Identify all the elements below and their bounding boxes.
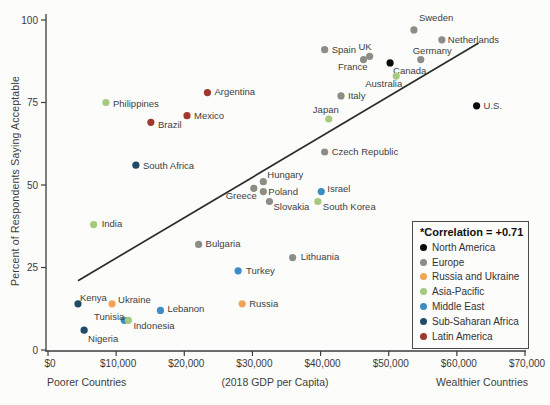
x-tick-label: $20,000 (168, 358, 205, 369)
country-label-russia: Russia (249, 298, 279, 309)
country-label-italy: Italy (348, 90, 366, 101)
legend-item-latin-america: Latin America (420, 329, 523, 344)
x-tick-label: $30,000 (236, 358, 273, 369)
legend-color-dot (420, 244, 427, 251)
country-label-brazil: Brazil (158, 119, 182, 130)
data-point-italy (337, 92, 344, 99)
data-point-u-s- (473, 102, 480, 109)
data-point-sweden (410, 26, 417, 33)
legend-item-middle-east: Middle East (420, 299, 523, 314)
legend-item-label: Europe (432, 257, 464, 268)
country-label-uk: UK (358, 41, 372, 52)
x-axis-caption-wealthier: Wealthier Countries (436, 376, 528, 388)
country-label-france: France (338, 61, 368, 72)
country-label-lithuania: Lithuania (301, 251, 340, 262)
country-label-germany: Germany (413, 45, 452, 56)
country-label-poland: Poland (268, 186, 298, 197)
country-label-sweden: Sweden (419, 12, 453, 23)
data-point-indonesia (125, 317, 132, 324)
legend-item-sub-saharan-africa: Sub-Saharan Africa (420, 314, 523, 329)
legend-color-dot (420, 273, 427, 280)
legend-item-asia-pacific: Asia-Pacific (420, 284, 523, 299)
legend-color-dot (420, 259, 427, 266)
legend-color-dot (420, 288, 427, 295)
data-point-mexico (183, 112, 190, 119)
country-label-israel: Israel (327, 183, 350, 194)
data-point-poland (260, 188, 267, 195)
country-label-south-africa: South Africa (143, 160, 195, 171)
data-point-turkey (235, 267, 242, 274)
data-point-slovakia (266, 198, 273, 205)
country-label-spain: Spain (332, 44, 356, 55)
data-point-bulgaria (195, 241, 202, 248)
x-tick-label: $50,000 (373, 358, 410, 369)
data-point-germany (417, 56, 424, 63)
country-label-slovakia: Slovakia (273, 201, 310, 212)
legend-item-label: Sub-Saharan Africa (432, 316, 519, 327)
country-label-ukraine: Ukraine (118, 294, 151, 305)
country-label-australia: Australia (365, 78, 403, 89)
y-tick-label: 100 (21, 15, 38, 26)
data-point-israel (318, 188, 325, 195)
country-label-greece: Greece (226, 190, 257, 201)
legend-color-dot (420, 318, 427, 325)
data-point-india (90, 221, 97, 228)
x-tick-label: $0 (44, 358, 56, 369)
legend-color-dot (420, 333, 427, 340)
y-tick-label: 0 (32, 345, 38, 356)
data-point-japan (325, 115, 332, 122)
y-tick-label: 50 (27, 180, 39, 191)
data-point-czech-republic (321, 148, 328, 155)
data-point-ukraine (108, 300, 115, 307)
scatter-plot-figure: Percent of Respondents Saying Acceptable… (0, 0, 550, 405)
data-point-netherlands (438, 36, 445, 43)
country-label-south-korea: South Korea (323, 201, 377, 212)
legend-color-dot (420, 303, 427, 310)
country-label-lebanon: Lebanon (167, 303, 204, 314)
data-point-argentina (204, 89, 211, 96)
country-label-india: India (102, 218, 123, 229)
legend-box: *Correlation = +0.71 North AmericaEurope… (412, 221, 529, 349)
legend-item-north-america: North America (420, 240, 523, 255)
legend-item-label: Latin America (432, 331, 493, 342)
legend-item-label: Asia-Pacific (432, 286, 484, 297)
legend-item-label: Middle East (432, 301, 484, 312)
legend-item-label: North America (432, 242, 495, 253)
data-point-hungary (260, 178, 267, 185)
country-label-hungary: Hungary (267, 169, 303, 180)
x-tick-label: $10,000 (100, 358, 137, 369)
data-point-south-korea (314, 198, 321, 205)
data-point-spain (321, 46, 328, 53)
country-label-philippines: Philippines (113, 98, 159, 109)
data-point-philippines (102, 99, 109, 106)
country-label-mexico: Mexico (194, 110, 224, 121)
country-label-netherlands: Netherlands (448, 34, 499, 45)
country-label-turkey: Turkey (246, 265, 275, 276)
legend-item-label: Russia and Ukraine (432, 271, 519, 282)
legend-item-europe: Europe (420, 255, 523, 270)
legend-correlation-title: *Correlation = +0.71 (420, 226, 523, 238)
country-label-nigeria: Nigeria (88, 333, 119, 344)
y-tick-label: 75 (27, 97, 39, 108)
data-point-lithuania (289, 254, 296, 261)
country-label-japan: Japan (313, 104, 339, 115)
data-point-south-africa (132, 162, 139, 169)
x-tick-label: $70,000 (509, 358, 546, 369)
y-axis-title: Percent of Respondents Saying Acceptable (9, 11, 21, 351)
y-tick-label: 25 (27, 262, 39, 273)
data-point-nigeria (81, 327, 88, 334)
data-point-lebanon (157, 307, 164, 314)
country-label-bulgaria: Bulgaria (206, 238, 242, 249)
country-label-czech-republic: Czech Republic (332, 146, 399, 157)
country-label-argentina: Argentina (214, 86, 255, 97)
legend-item-russia-and-ukraine: Russia and Ukraine (420, 270, 523, 285)
data-point-brazil (147, 119, 154, 126)
country-label-indonesia: Indonesia (133, 320, 175, 331)
data-point-uk (366, 53, 373, 60)
country-label-tunisia: Tunisia (94, 311, 125, 322)
country-label-kenya: Kenya (80, 292, 108, 303)
legend-item-list: North AmericaEuropeRussia and UkraineAsi… (420, 240, 523, 344)
x-tick-label: $40,000 (304, 358, 341, 369)
x-tick-label: $60,000 (441, 358, 478, 369)
country-label-u-s-: U.S. (484, 100, 502, 111)
